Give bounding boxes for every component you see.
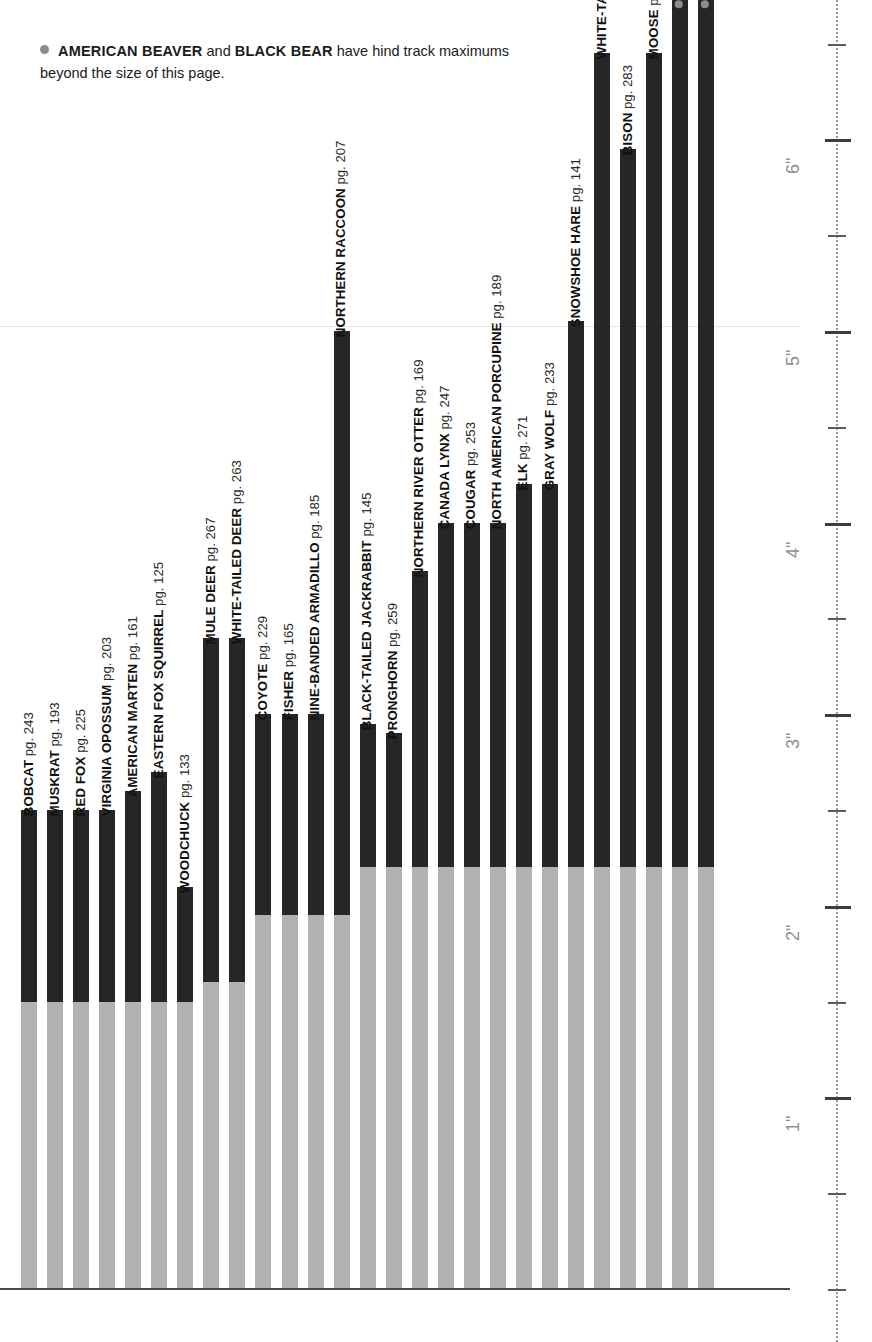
species-name: NORTHERN RACCOON (333, 188, 348, 337)
ruler-label-4in: 4" (783, 541, 804, 557)
bar-max-segment (203, 638, 219, 983)
bar-min-segment (73, 1002, 89, 1289)
ruler-tick-major (825, 1097, 851, 1100)
bar-min-segment (203, 982, 219, 1289)
bar-american-beaver (672, 0, 688, 1289)
gray-dot-icon (675, 0, 683, 8)
bar-min-segment (698, 867, 714, 1289)
ruler-tick-major (825, 906, 851, 909)
bar-max-segment (334, 331, 350, 915)
bar-min-segment (516, 867, 532, 1289)
bar-min-segment (125, 1002, 141, 1289)
species-name: NINE-BANDED ARMADILLO (307, 543, 322, 721)
bar-max-segment (125, 791, 141, 1002)
ruler-label-5in: 5" (783, 350, 804, 366)
species-name: ELK (515, 464, 530, 491)
bar-label-black-tailed-jackrabbit: BLACK-TAILED JACKRABBIT pg. 145 (360, 492, 373, 730)
bar-label-american-beaver: AMERICAN BEAVER pg. 197 (673, 0, 686, 8)
page-reference: pg. 141 (567, 159, 582, 207)
species-name: SNOWSHOE HARE (567, 206, 582, 327)
bar-white-tailed-deer (229, 638, 245, 1289)
species-name: COUGAR (463, 469, 478, 529)
species-name: RED FOX (72, 757, 87, 817)
species-name: NORTHERN RIVER OTTER (411, 407, 426, 577)
bar-northern-river-otter (412, 571, 428, 1290)
page-reference: pg. 267 (203, 517, 218, 565)
bar-min-segment (255, 915, 271, 1289)
bar-max-segment (698, 0, 714, 867)
bar-label-mule-deer: MULE DEER pg. 267 (204, 517, 217, 644)
bar-label-virginia-opossum: VIRGINIA OPOSSUM pg. 203 (99, 637, 112, 816)
page-reference: pg. 271 (515, 416, 530, 464)
bar-max-segment (99, 810, 115, 1002)
ruler-label-3in: 3" (783, 733, 804, 749)
bar-label-bobcat: BOBCAT pg. 243 (21, 712, 34, 816)
bar-min-segment (412, 867, 428, 1289)
species-name: FISHER (281, 671, 296, 720)
bar-black-bear (698, 0, 714, 1289)
species-name: EASTERN FOX SQUIRREL (151, 609, 166, 778)
page-reference: pg. 185 (307, 495, 322, 543)
bar-pronghorn (386, 733, 402, 1289)
bar-max-segment (255, 714, 271, 915)
bar-max-segment (21, 810, 37, 1002)
bar-label-gray-wolf: GRAY WOLF pg. 233 (542, 362, 555, 490)
bar-gray-wolf (542, 484, 558, 1289)
bar-min-segment (594, 867, 610, 1289)
ruler-tick-half (828, 1002, 846, 1004)
species-name: NORTH AMERICAN PORCUPINE (489, 322, 504, 529)
species-name: COYOTE (255, 664, 270, 721)
bar-min-segment (282, 915, 298, 1289)
bar-label-muskrat: MUSKRAT pg. 193 (47, 703, 60, 817)
ruler-tick-half (828, 810, 846, 812)
bar-label-black-bear: BLACK BEAR pg. 211 (699, 0, 712, 8)
page-reference: pg. 165 (281, 623, 296, 671)
page-reference: pg. 169 (411, 359, 426, 407)
bar-label-bison: BISON pg. 283 (620, 65, 633, 155)
bar-black-tailed-jackrabbit (360, 724, 376, 1289)
bar-max-segment (229, 638, 245, 983)
bar-max-segment (568, 321, 584, 867)
bar-label-american-marten: AMERICAN MARTEN pg. 161 (125, 616, 138, 797)
bar-label-red-fox: RED FOX pg. 225 (73, 709, 86, 816)
ruler-tick-major (825, 523, 851, 526)
ruler-tick-half (828, 44, 846, 46)
page-reference: pg. 277 (645, 0, 660, 10)
bar-max-segment (438, 523, 454, 868)
bar-label-north-american-porcupine: NORTH AMERICAN PORCUPINE pg. 189 (490, 274, 503, 528)
page-reference: pg. 207 (333, 141, 348, 189)
bar-min-segment (490, 867, 506, 1289)
bar-nine-banded-armadillo (308, 714, 324, 1289)
bar-min-segment (620, 867, 636, 1289)
bar-max-segment (594, 53, 610, 867)
bar-coyote (255, 714, 271, 1289)
bar-min-segment (308, 915, 324, 1289)
bar-label-fisher: FISHER pg. 165 (282, 623, 295, 720)
bar-max-segment (464, 523, 480, 868)
bar-max-segment (360, 724, 376, 868)
bar-min-segment (151, 1002, 167, 1289)
species-name: BOBCAT (20, 760, 35, 816)
bar-max-segment (73, 810, 89, 1002)
bar-max-segment (542, 484, 558, 867)
page-reference: pg. 263 (229, 460, 244, 508)
page-reference: pg. 233 (541, 362, 556, 410)
bar-min-segment (360, 867, 376, 1289)
gray-dot-icon (701, 0, 709, 8)
species-name: CANADA LYNX (437, 433, 452, 529)
species-name: MOOSE (645, 10, 660, 60)
bar-fisher (282, 714, 298, 1289)
bar-max-segment (177, 887, 193, 1002)
bar-max-segment (282, 714, 298, 915)
bar-label-elk: ELK pg. 271 (516, 416, 529, 491)
bar-label-coyote: COYOTE pg. 229 (256, 616, 269, 720)
bar-min-segment (99, 1002, 115, 1289)
bar-label-pronghorn: PRONGHORN pg. 259 (386, 603, 399, 739)
ruler-tick-half (828, 1289, 846, 1291)
bar-label-eastern-fox-squirrel: EASTERN FOX SQUIRREL pg. 125 (152, 562, 165, 778)
species-name: WOODCHUCK (177, 801, 192, 892)
bar-max-segment (386, 733, 402, 867)
page-reference: pg. 243 (20, 712, 35, 760)
bar-mule-deer (203, 638, 219, 1289)
bar-min-segment (646, 867, 662, 1289)
